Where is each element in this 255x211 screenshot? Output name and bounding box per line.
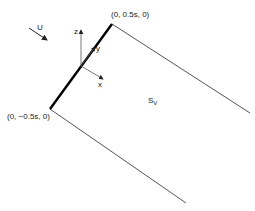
- top-point-label: (0, 0.5s, 0): [111, 10, 150, 19]
- axis-x-label: x: [98, 80, 102, 89]
- flow-label: U: [37, 23, 43, 32]
- axis-z-label: z: [74, 27, 78, 36]
- wake-upper-edge: [112, 24, 250, 113]
- wake-lower-edge: [50, 109, 186, 203]
- axis-y-label: y: [96, 44, 100, 53]
- surface-label: SV: [148, 96, 157, 106]
- x-axis: [81, 66, 103, 79]
- surface-label-sub: V: [153, 100, 157, 106]
- vortex-sheet-diagram: z y x U (0, 0.5s, 0) (0, −0.5s, 0) SV: [0, 0, 255, 211]
- bottom-point-label: (0, −0.5s, 0): [7, 112, 50, 121]
- y-axis: [81, 47, 95, 66]
